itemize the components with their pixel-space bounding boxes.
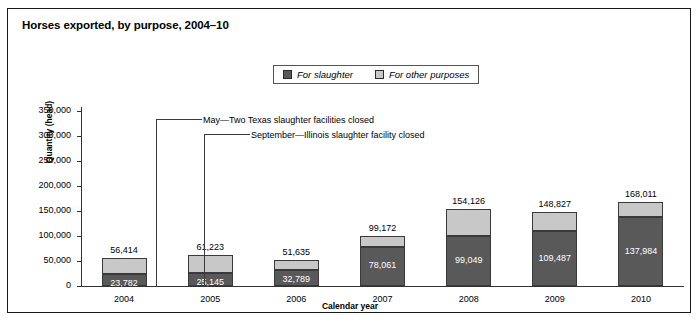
bar-value-label-for-slaughter: 23,782 [102, 278, 147, 288]
annotation-leader-line-horizontal [204, 134, 250, 135]
bar-total-label: 99,172 [346, 223, 419, 233]
y-axis-tick-label: 200,000 [19, 180, 71, 190]
bar-segment-for-other-purposes[interactable] [532, 212, 577, 232]
bar-total-label: 148,827 [518, 199, 591, 209]
y-axis-tick-label: 0 [19, 280, 71, 290]
bar-group: 99,049154,1262008 [446, 111, 491, 286]
bar-value-label-for-slaughter: 99,049 [446, 255, 491, 265]
bar-value-label-for-slaughter: 32,789 [274, 274, 319, 284]
plot-area: Quantity (head) Calendar year 050,000100… [8, 9, 692, 314]
bar-value-label-for-slaughter: 25,145 [188, 277, 233, 287]
bar-segment-for-other-purposes[interactable] [618, 202, 663, 217]
y-axis-tick-label: 250,000 [19, 155, 71, 165]
bar-total-label: 56,414 [88, 245, 161, 255]
y-axis-tick-mark [77, 236, 81, 237]
bar-group: 137,984168,0112010 [618, 111, 663, 286]
x-axis-tick-label: 2005 [168, 294, 253, 304]
y-axis-tick-mark [77, 211, 81, 212]
y-axis-tick-mark [77, 286, 81, 287]
y-axis-tick-mark [77, 261, 81, 262]
annotation-leader-line-horizontal [156, 119, 202, 120]
x-axis-tick-label: 2007 [340, 294, 425, 304]
bar-total-label: 61,223 [174, 242, 247, 252]
bar-segment-for-other-purposes[interactable] [446, 209, 491, 237]
x-axis-tick-label: 2004 [82, 294, 167, 304]
bar-segment-for-other-purposes[interactable] [102, 258, 147, 274]
annotation-leader-line-vertical [204, 134, 205, 286]
bar-value-label-for-slaughter: 109,487 [532, 253, 577, 263]
bar-value-label-for-slaughter: 78,061 [360, 260, 405, 270]
annotation-leader-line-vertical [156, 119, 157, 286]
bar-segment-for-other-purposes[interactable] [188, 255, 233, 273]
y-axis-tick-label: 150,000 [19, 205, 71, 215]
y-axis-tick-label: 100,000 [19, 230, 71, 240]
bar-total-label: 154,126 [432, 196, 505, 206]
y-axis-line [81, 107, 82, 286]
x-axis-tick-label: 2006 [254, 294, 339, 304]
y-axis-tick-label: 300,000 [19, 130, 71, 140]
bar-segment-for-other-purposes[interactable] [360, 236, 405, 247]
chart-annotation-label: May—Two Texas slaughter facilities close… [203, 115, 374, 125]
bar-group: 23,78256,4142004 [102, 111, 147, 286]
x-axis-tick-label: 2009 [512, 294, 597, 304]
bar-group: 109,487148,8272009 [532, 111, 577, 286]
y-axis-tick-mark [77, 161, 81, 162]
x-axis-tick-label: 2008 [426, 294, 511, 304]
bar-group: 25,14561,2232005 [188, 111, 233, 286]
bar-segment-for-other-purposes[interactable] [274, 260, 319, 269]
chart-annotation-label: September—Illinois slaughter facility cl… [251, 130, 425, 140]
bar-value-label-for-slaughter: 137,984 [618, 246, 663, 256]
x-axis-line [81, 286, 684, 287]
bar-total-label: 168,011 [604, 189, 677, 199]
y-axis-tick-mark [77, 186, 81, 187]
y-axis-tick-label: 350,000 [19, 105, 71, 115]
figure-panel: Horses exported, by purpose, 2004–10 For… [7, 8, 691, 313]
y-axis-tick-mark [77, 136, 81, 137]
x-axis-tick-label: 2010 [598, 294, 683, 304]
y-axis-tick-mark [77, 111, 81, 112]
bar-total-label: 51,635 [260, 247, 333, 257]
y-axis-tick-label: 50,000 [19, 255, 71, 265]
